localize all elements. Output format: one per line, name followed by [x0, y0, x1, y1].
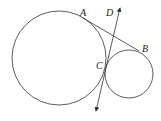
small-circle	[105, 50, 153, 98]
label-a: A	[79, 7, 87, 18]
label-d: D	[105, 7, 114, 18]
label-b: B	[142, 43, 148, 54]
geometry-diagram: A D B C	[0, 0, 161, 121]
label-c: C	[96, 60, 103, 71]
large-circle	[12, 11, 106, 105]
